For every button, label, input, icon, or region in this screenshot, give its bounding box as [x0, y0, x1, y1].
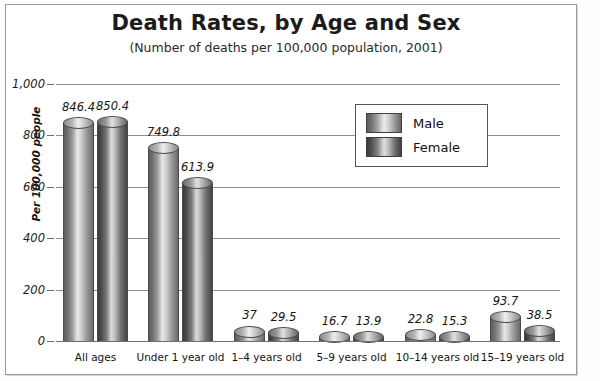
bar-value-label: 93.7	[481, 294, 530, 308]
legend-swatch-male-icon	[366, 113, 402, 133]
y-axis-tick-label: 600	[23, 180, 45, 194]
legend-item-male[interactable]: Male	[366, 111, 487, 135]
x-axis-category-label: 15–19 years old	[473, 351, 572, 363]
bar-female[interactable]	[353, 331, 384, 341]
bar-body	[97, 122, 128, 341]
y-axis-tick-labels: 1,0008006004002000	[0, 84, 45, 341]
x-axis-category-label: 5–9 years old	[302, 351, 401, 363]
bar-body	[63, 123, 94, 341]
bar-value-label: 15.3	[430, 314, 479, 328]
y-axis-tick-label: 800	[23, 128, 45, 142]
legend-label-female: Female	[413, 140, 460, 155]
bar-male[interactable]	[63, 117, 94, 341]
x-axis-line	[56, 341, 560, 342]
bar-female[interactable]	[268, 327, 299, 341]
y-axis-tick	[47, 238, 54, 239]
bar-male[interactable]	[234, 326, 265, 342]
y-axis-tick-label: 0	[38, 334, 45, 348]
chart-title: Death Rates, by Age and Sex	[0, 11, 572, 35]
bar-body	[148, 148, 179, 341]
bar-body	[182, 183, 213, 341]
bar-female[interactable]	[97, 116, 128, 341]
gridline	[56, 238, 560, 239]
gridline	[56, 187, 560, 188]
y-axis-tick	[47, 84, 54, 85]
bar-male[interactable]	[319, 331, 350, 341]
bar-value-label: 749.8	[139, 125, 188, 139]
y-axis-tick-label: 400	[23, 231, 45, 245]
y-axis-tick	[47, 187, 54, 188]
legend-swatch-female-icon	[366, 137, 402, 157]
chart-subtitle: (Number of deaths per 100,000 population…	[0, 40, 572, 55]
bar-value-label: 13.9	[344, 314, 393, 328]
bar-female[interactable]	[182, 177, 213, 341]
chart-container: Death Rates, by Age and Sex (Number of d…	[0, 0, 600, 381]
y-axis-tick-label: 200	[23, 283, 45, 297]
y-axis-tick	[47, 341, 54, 342]
legend-box: Male Female	[355, 104, 488, 167]
gridline	[56, 84, 560, 85]
bar-female[interactable]	[524, 325, 555, 341]
gridline	[56, 290, 560, 291]
bar-value-label: 850.4	[88, 99, 137, 113]
bar-value-label: 29.5	[259, 310, 308, 324]
y-axis-tick	[47, 290, 54, 291]
legend-label-male: Male	[413, 116, 444, 131]
legend-item-female[interactable]: Female	[366, 135, 487, 159]
bar-female[interactable]	[439, 331, 470, 341]
bar-male[interactable]	[405, 329, 436, 341]
bar-value-label: 38.5	[515, 308, 564, 322]
x-axis-category-label: Under 1 year old	[131, 351, 230, 363]
bar-top-cap	[234, 326, 265, 338]
bar-value-label: 613.9	[173, 160, 222, 174]
y-axis-tick-label: 1,000	[12, 77, 45, 91]
y-axis-tick	[47, 135, 54, 136]
